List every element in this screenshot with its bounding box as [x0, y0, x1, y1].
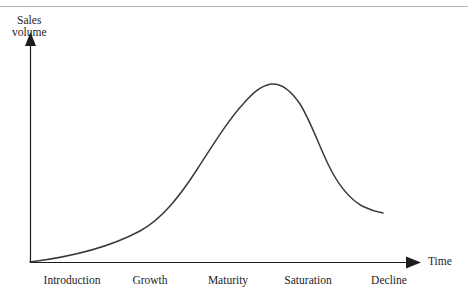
chart-plot-area [0, 0, 468, 301]
sales-volume-curve [30, 84, 383, 262]
stage-label-maturity: Maturity [208, 274, 248, 286]
stage-label-growth: Growth [132, 274, 167, 286]
stage-label-saturation: Saturation [284, 274, 331, 286]
x-axis-label: Time [428, 255, 452, 268]
x-axis-arrowhead-icon [406, 257, 421, 269]
stage-label-decline: Decline [371, 274, 407, 286]
stage-label-introduction: Introduction [44, 274, 101, 286]
product-life-cycle-figure: Sales volume Time Introduction Growth Ma… [0, 0, 468, 301]
y-axis-label: Sales volume [12, 14, 47, 38]
y-axis-label-line2: volume [12, 26, 47, 38]
y-axis-label-line1: Sales [12, 14, 47, 26]
